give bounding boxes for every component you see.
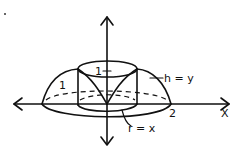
radius-label: r = x xyxy=(128,122,156,135)
dome-height-label: 1 xyxy=(59,79,66,92)
x-tick-2-label: 2 xyxy=(169,107,176,120)
solid-of-revolution-diagram: 1 1 h = y 2 X r = x xyxy=(0,0,234,156)
height-label: h = y xyxy=(164,72,194,85)
x-axis-label: X xyxy=(221,107,229,120)
stray-mark xyxy=(4,13,6,15)
inner-curve-right xyxy=(107,69,137,104)
y-axis xyxy=(101,17,113,145)
cylinder-height-label: 1 xyxy=(95,65,102,78)
